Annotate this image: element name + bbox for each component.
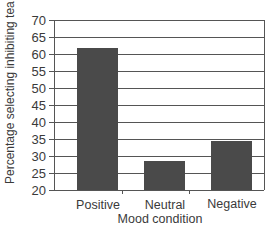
x-label-positive: Positive xyxy=(63,198,133,212)
y-tick-30: 30 xyxy=(22,150,46,163)
y-tick-40: 40 xyxy=(22,116,46,129)
x-label-negative: Negative xyxy=(197,197,266,211)
y-tick-25: 25 xyxy=(22,167,46,180)
y-axis-title: Percentage selecting inhibiting tea xyxy=(3,44,17,184)
y-tick-70: 70 xyxy=(22,14,46,27)
x-tick-mark xyxy=(122,190,123,194)
plot-area xyxy=(54,20,265,190)
y-tick-20: 20 xyxy=(22,184,46,197)
gridline-65 xyxy=(49,37,264,38)
gridline-20 xyxy=(49,190,264,191)
x-axis-title: Mood condition xyxy=(110,212,210,226)
y-tick-45: 45 xyxy=(22,99,46,112)
y-tick-50: 50 xyxy=(22,82,46,95)
bar-negative xyxy=(211,141,252,190)
bar-positive xyxy=(77,48,118,190)
gridline-70 xyxy=(49,20,264,21)
x-tick-mark xyxy=(189,190,190,194)
x-label-neutral: Neutral xyxy=(130,198,200,212)
y-tick-60: 60 xyxy=(22,48,46,61)
y-tick-35: 35 xyxy=(22,133,46,146)
bar-neutral xyxy=(144,161,185,190)
y-tick-65: 65 xyxy=(22,31,46,44)
y-tick-55: 55 xyxy=(22,65,46,78)
